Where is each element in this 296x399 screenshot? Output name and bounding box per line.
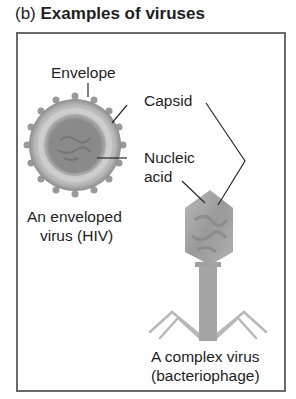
bacteriophage <box>150 190 266 341</box>
label-capsid: Capsid <box>144 92 192 110</box>
virus-illustration <box>0 0 296 399</box>
hiv-virus <box>24 93 127 198</box>
label-phage-line1: A complex virus <box>151 348 260 366</box>
label-envelope: Envelope <box>51 64 116 82</box>
capsid-leader-phage <box>206 103 245 205</box>
core <box>49 121 101 173</box>
phage-tail <box>199 266 217 341</box>
nucleic-leader-phage <box>182 181 205 203</box>
phage-head <box>185 190 233 265</box>
label-phage-line2: (bacteriophage) <box>151 367 260 385</box>
label-nucleic-line1: Nucleic <box>144 149 195 167</box>
label-hiv-line1: An enveloped <box>27 208 122 226</box>
label-hiv-line2: virus (HIV) <box>40 227 113 245</box>
capsid-leader-hiv <box>112 105 127 123</box>
label-nucleic-line2: acid <box>144 168 172 186</box>
